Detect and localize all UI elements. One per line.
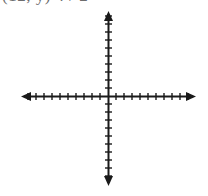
y-axis	[104, 11, 113, 186]
x-axis-arrow-left-icon	[21, 92, 31, 101]
y-axis-arrow-down-icon	[104, 176, 113, 186]
coordinate-plane	[0, 0, 208, 196]
graph-figure: (12, y) 4 / 2	[0, 0, 208, 196]
